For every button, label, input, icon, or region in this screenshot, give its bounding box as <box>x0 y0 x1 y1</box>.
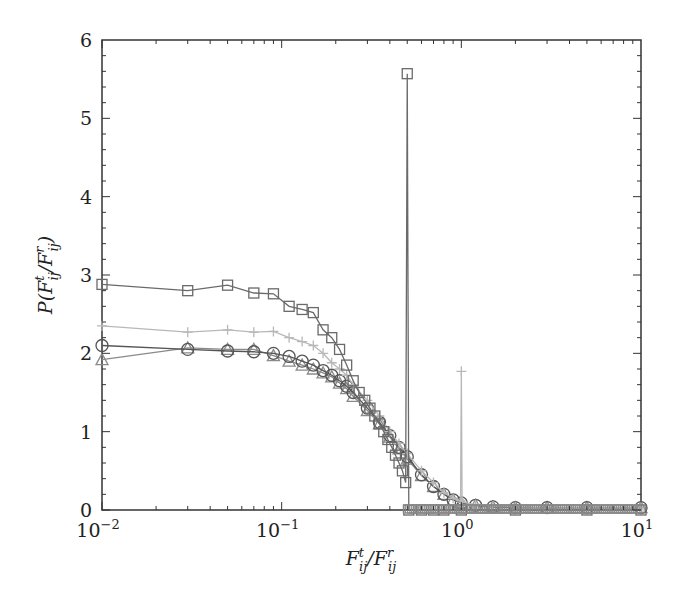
y-tick-label: 3 <box>80 264 92 286</box>
axis-tick-labels: 012345610−210−1100101 <box>76 29 653 541</box>
axis-ticks <box>102 40 641 510</box>
plus-marker <box>284 333 294 343</box>
plus-marker <box>223 325 233 335</box>
y-tick-label: 1 <box>80 421 92 443</box>
x-tick-label: 100 <box>441 517 473 541</box>
y-tick-label: 6 <box>80 29 92 51</box>
floor-markers <box>403 505 644 513</box>
plot-border <box>102 40 641 510</box>
y-axis-title: P(Ftij/Frij) <box>32 236 61 315</box>
y-tick-label: 4 <box>80 186 92 208</box>
series-line <box>102 348 641 508</box>
plus-marker <box>297 337 307 347</box>
plus-marker <box>268 326 278 336</box>
chart: 012345610−210−1100101 Ftij/FrijP(Ftij/Fr… <box>0 0 680 606</box>
plus-marker <box>183 327 193 337</box>
plus-marker <box>249 327 259 337</box>
series-circles <box>96 340 647 514</box>
y-tick-label: 0 <box>80 499 92 521</box>
series-line <box>102 346 641 508</box>
series-triangles <box>96 342 647 513</box>
y-tick-label: 5 <box>80 107 92 129</box>
y-tick-label: 2 <box>80 342 92 364</box>
series-layer <box>96 69 647 515</box>
plus-marker <box>456 366 466 376</box>
x-tick-label: 101 <box>621 517 653 541</box>
x-tick-label: 10−1 <box>256 517 299 541</box>
x-tick-label: 10−2 <box>76 517 119 541</box>
plot-frame <box>102 40 641 510</box>
x-axis-title: Ftij/Frij <box>345 545 397 574</box>
series-squares <box>97 69 646 515</box>
